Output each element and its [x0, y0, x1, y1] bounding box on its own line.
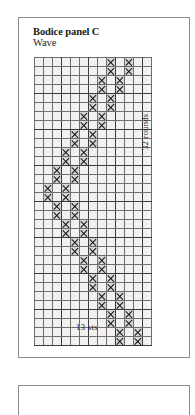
chart-cell-empty: [35, 274, 44, 283]
chart-cell-empty: [35, 139, 44, 148]
chart-cell-empty: [44, 292, 53, 301]
chart-cell-empty: [35, 184, 44, 193]
chart-cell-empty: [125, 247, 134, 256]
chart-cell-empty: [89, 202, 98, 211]
chart-cell-empty: [89, 265, 98, 274]
chart-cell-marked: [116, 292, 125, 301]
chart-cell-marked: [107, 310, 116, 319]
chart-cell-empty: [80, 247, 89, 256]
chart-cell-empty: [116, 166, 125, 175]
chart-cell-empty: [35, 193, 44, 202]
chart-cell-empty: [53, 121, 62, 130]
chart-cell-marked: [80, 112, 89, 121]
chart-cell-empty: [62, 238, 71, 247]
chart-cell-empty: [125, 238, 134, 247]
chart-cell-empty: [107, 220, 116, 229]
chart-row: [35, 337, 152, 346]
chart-cell-empty: [107, 148, 116, 157]
chart-cell-empty: [98, 283, 107, 292]
chart-cell-empty: [107, 85, 116, 94]
chart-cell-empty: [134, 283, 143, 292]
chart-cell-empty: [116, 193, 125, 202]
chart-cell-empty: [35, 157, 44, 166]
chart-cell-empty: [53, 94, 62, 103]
chart-cell-empty: [125, 112, 134, 121]
chart-cell-empty: [53, 292, 62, 301]
chart-cell-marked: [125, 58, 134, 67]
chart-cell-empty: [143, 220, 152, 229]
chart-cell-empty: [80, 274, 89, 283]
chart-cell-empty: [71, 67, 80, 76]
chart-cell-empty: [134, 193, 143, 202]
chart-cell-empty: [143, 157, 152, 166]
chart-cell-empty: [44, 220, 53, 229]
chart-cell-empty: [44, 58, 53, 67]
chart-cell-empty: [134, 256, 143, 265]
chart-cell-empty: [80, 184, 89, 193]
chart-cell-marked: [44, 193, 53, 202]
chart-cell-empty: [80, 130, 89, 139]
chart-cell-empty: [44, 265, 53, 274]
chart-x-axis-label: 13 sts: [34, 322, 140, 332]
chart-cell-empty: [71, 85, 80, 94]
chart-cell-empty: [125, 85, 134, 94]
chart-cell-empty: [89, 121, 98, 130]
chart-cell-empty: [71, 157, 80, 166]
chart-cell-empty: [143, 229, 152, 238]
chart-cell-empty: [71, 94, 80, 103]
chart-row: [35, 85, 152, 94]
chart-cell-empty: [116, 274, 125, 283]
chart-row: [35, 211, 152, 220]
chart-cell-empty: [125, 157, 134, 166]
chart-cell-empty: [107, 238, 116, 247]
chart-cell-empty: [143, 274, 152, 283]
chart-cell-empty: [107, 193, 116, 202]
chart-cell-empty: [44, 130, 53, 139]
chart-cell-empty: [134, 229, 143, 238]
chart-cell-empty: [44, 310, 53, 319]
chart-cell-empty: [107, 139, 116, 148]
chart-cell-empty: [35, 67, 44, 76]
chart-cell-empty: [89, 301, 98, 310]
chart-cell-empty: [71, 229, 80, 238]
chart-cell-empty: [98, 94, 107, 103]
chart-cell-empty: [116, 121, 125, 130]
chart-cell-empty: [53, 283, 62, 292]
chart-cell-empty: [107, 202, 116, 211]
chart-cell-marked: [71, 211, 80, 220]
chart-cell-empty: [98, 148, 107, 157]
chart-cell-marked: [98, 256, 107, 265]
chart-cell-marked: [53, 202, 62, 211]
chart-cell-empty: [116, 157, 125, 166]
chart-cell-empty: [35, 256, 44, 265]
chart-cell-marked: [62, 220, 71, 229]
chart-cell-empty: [80, 139, 89, 148]
chart-cell-empty: [107, 337, 116, 346]
chart-cell-empty: [62, 337, 71, 346]
chart-row: [35, 301, 152, 310]
chart-row: [35, 292, 152, 301]
chart-cell-marked: [89, 94, 98, 103]
chart-cell-empty: [125, 274, 134, 283]
chart-cell-empty: [53, 85, 62, 94]
chart-cell-empty: [62, 211, 71, 220]
chart-cell-empty: [116, 256, 125, 265]
chart-cell-empty: [80, 67, 89, 76]
chart-cell-empty: [107, 184, 116, 193]
chart-cell-empty: [53, 184, 62, 193]
chart-cell-empty: [89, 76, 98, 85]
chart-cell-empty: [53, 112, 62, 121]
chart-cell-empty: [35, 166, 44, 175]
chart-cell-marked: [62, 157, 71, 166]
chart-cell-empty: [116, 238, 125, 247]
chart-row: [35, 130, 152, 139]
chart-cell-empty: [44, 157, 53, 166]
chart-cell-empty: [134, 274, 143, 283]
chart-cell-empty: [107, 175, 116, 184]
chart-cell-empty: [71, 283, 80, 292]
chart-cell-empty: [116, 58, 125, 67]
chart-cell-empty: [62, 292, 71, 301]
chart-cell-empty: [44, 202, 53, 211]
chart-cell-empty: [134, 202, 143, 211]
chart-cell-empty: [143, 202, 152, 211]
